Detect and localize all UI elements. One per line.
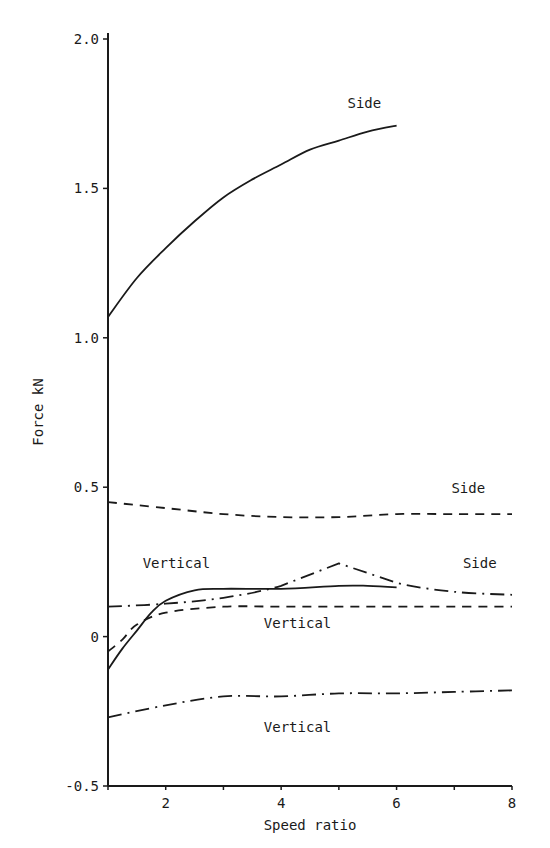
y-tick-label: 0.5 xyxy=(74,479,99,495)
x-tick-label: 8 xyxy=(508,795,516,811)
label-vertical-dash-dot: Vertical xyxy=(264,719,331,735)
curve-labels: SideSideSideVerticalVerticalVertical xyxy=(143,95,497,735)
y-axis-label: Force kN xyxy=(30,378,46,445)
curve-side-solid xyxy=(108,126,397,317)
x-axis-label: Speed ratio xyxy=(264,817,357,833)
label-side-dash-dot: Side xyxy=(463,555,497,571)
chart-axes: -0.500.51.01.52.02468 xyxy=(65,31,516,811)
line-chart: -0.500.51.01.52.02468 SideSideSideVertic… xyxy=(0,0,550,848)
label-vertical-dashed: Vertical xyxy=(264,615,331,631)
curve-vertical-solid xyxy=(108,586,397,670)
x-tick-label: 2 xyxy=(161,795,169,811)
y-tick-label: 1.0 xyxy=(74,330,99,346)
y-tick-label: 0 xyxy=(91,629,99,645)
label-side-solid: Side xyxy=(348,95,382,111)
curve-vertical-dash-dot xyxy=(108,690,512,717)
y-tick-label: 2.0 xyxy=(74,31,99,47)
y-tick-label: -0.5 xyxy=(65,778,99,794)
x-tick-label: 6 xyxy=(392,795,400,811)
label-side-dashed: Side xyxy=(451,480,485,496)
y-tick-label: 1.5 xyxy=(74,180,99,196)
label-vertical-solid: Vertical xyxy=(143,555,210,571)
curve-side-dashed xyxy=(108,502,512,517)
x-tick-label: 4 xyxy=(277,795,285,811)
